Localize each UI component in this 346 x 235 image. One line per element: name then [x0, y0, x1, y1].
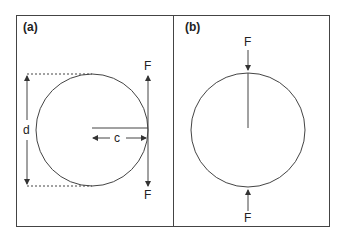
force-label-top: F [144, 59, 151, 73]
force-label-bottom-b: F [244, 211, 251, 225]
panel-a-label: (a) [23, 20, 38, 34]
panel-b-label: (b) [185, 20, 200, 34]
force-label-bottom: F [144, 188, 151, 202]
panel-b: (b) F F [185, 20, 305, 225]
force-label-top-b: F [244, 35, 251, 49]
figure-canvas: (a) d c F F (b) F F [0, 0, 346, 235]
diameter-label: d [23, 123, 30, 137]
disk-a [36, 74, 148, 186]
panel-a: (a) d c F F [23, 20, 151, 202]
offset-label: c [114, 131, 120, 145]
